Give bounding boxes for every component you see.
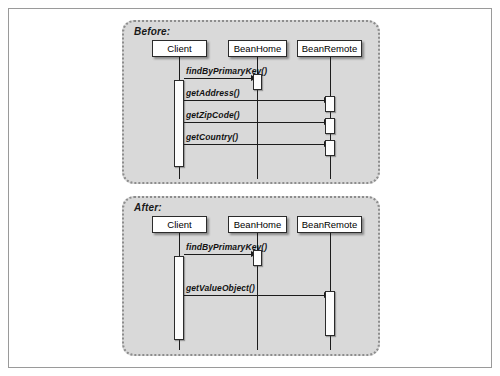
actor-box-beanremote-before: BeanRemote xyxy=(297,40,362,57)
message-label-getaddress-before: getAddress() xyxy=(186,88,240,98)
panel-after-label: After: xyxy=(134,202,162,213)
actor-box-beanhome-before: BeanHome xyxy=(228,40,287,57)
panel-before-label: Before: xyxy=(134,26,170,37)
message-line-getaddress-before xyxy=(184,100,325,101)
activation-beanremote-getcountry-before xyxy=(325,140,335,156)
message-label-getvalueobject-after: getValueObject() xyxy=(186,283,255,293)
actor-box-beanremote-after: BeanRemote xyxy=(297,216,362,233)
message-label-getzipcode-before: getZipCode() xyxy=(186,110,240,120)
message-line-getzipcode-before xyxy=(184,122,325,123)
actor-box-client-before: Client xyxy=(152,40,207,57)
activation-beanremote-getaddress-before xyxy=(325,96,335,112)
message-line-findbyprimarykey-after xyxy=(184,254,252,255)
actor-box-beanhome-after: BeanHome xyxy=(228,216,287,233)
message-line-getvalueobject-after xyxy=(184,295,325,296)
activation-beanhome-after xyxy=(253,250,262,266)
message-label-getcountry-before: getCountry() xyxy=(186,132,238,142)
activation-client-after xyxy=(174,256,184,340)
activation-client-before xyxy=(174,80,184,167)
message-line-findbyprimarykey-before xyxy=(184,78,252,79)
actor-box-client-after: Client xyxy=(152,216,207,233)
activation-beanhome-before xyxy=(253,74,262,90)
activation-beanremote-getvalueobject-after xyxy=(325,291,335,336)
panel-before: Before: Client BeanHome BeanRemote findB… xyxy=(122,20,380,184)
panel-after: After: Client BeanHome BeanRemote findBy… xyxy=(122,196,380,356)
sequence-diagram-figure: Before: Client BeanHome BeanRemote findB… xyxy=(0,0,500,376)
activation-beanremote-getzipcode-before xyxy=(325,118,335,134)
message-line-getcountry-before xyxy=(184,144,325,145)
